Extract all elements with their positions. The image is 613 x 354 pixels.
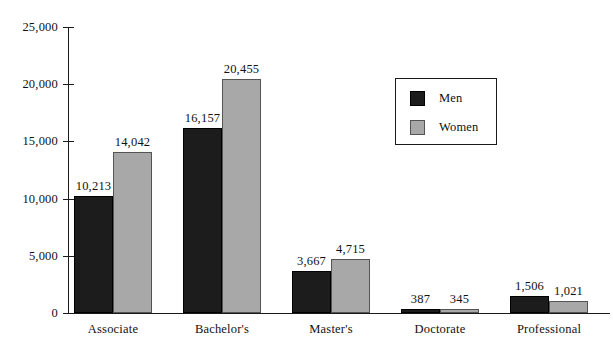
y-axis-tick-label: 5,000 (29, 248, 58, 263)
bar-value-label: 387 (411, 292, 430, 307)
x-axis-category-label: Bachelor's (195, 322, 249, 337)
legend-entry-men: Men (410, 90, 463, 106)
bar-value-label: 16,157 (185, 111, 221, 126)
legend-label-women: Women (439, 120, 479, 135)
bar-men: 16,157 (183, 128, 222, 313)
bar-group: 387345 (401, 27, 479, 313)
x-axis-line (68, 313, 610, 314)
bar-group: 1,5061,021 (510, 27, 588, 313)
bar-women: 345 (440, 309, 479, 313)
legend-entry-women: Women (410, 119, 479, 135)
bar-value-label: 1,021 (554, 284, 583, 299)
chart-legend: Men Women (395, 78, 497, 145)
x-axis-category-label: Master's (309, 322, 352, 337)
bar-group: 3,6674,715 (292, 27, 370, 313)
y-axis-tick-label: 15,000 (22, 134, 58, 149)
bar-value-label: 20,455 (224, 62, 260, 77)
bar-women: 4,715 (331, 259, 370, 313)
x-axis-category-label: Associate (88, 322, 138, 337)
y-axis-tick-label: 20,000 (22, 77, 58, 92)
y-axis-tick-label: 25,000 (22, 20, 58, 35)
legend-swatch-women-icon (410, 120, 425, 135)
bar-group: 16,15720,455 (183, 27, 261, 313)
y-axis-tick-label: 0 (52, 306, 58, 321)
bar-value-label: 1,506 (515, 279, 544, 294)
bar-women: 14,042 (113, 152, 152, 313)
bar-men: 3,667 (292, 271, 331, 313)
bar-value-label: 14,042 (115, 135, 151, 150)
bar-men: 10,213 (74, 196, 113, 313)
bar-men: 1,506 (510, 296, 549, 313)
bar-men: 387 (401, 309, 440, 313)
legend-swatch-men-icon (410, 91, 425, 106)
x-axis-category-label: Professional (517, 322, 581, 337)
bar-value-label: 3,667 (297, 254, 326, 269)
bar-women: 20,455 (222, 79, 261, 313)
x-axis-category-label: Doctorate (414, 322, 465, 337)
bar-value-label: 10,213 (76, 179, 112, 194)
bar-value-label: 4,715 (336, 242, 365, 257)
legend-label-men: Men (439, 91, 463, 106)
y-axis-tick-label: 10,000 (22, 191, 58, 206)
bar-value-label: 345 (450, 292, 469, 307)
bar-group: 10,21314,042 (74, 27, 152, 313)
plot-area: 10,21314,04216,15720,4553,6674,715387345… (69, 27, 610, 313)
bar-women: 1,021 (549, 301, 588, 313)
bar-chart: 05,00010,00015,00020,00025,000 10,21314,… (0, 0, 613, 354)
